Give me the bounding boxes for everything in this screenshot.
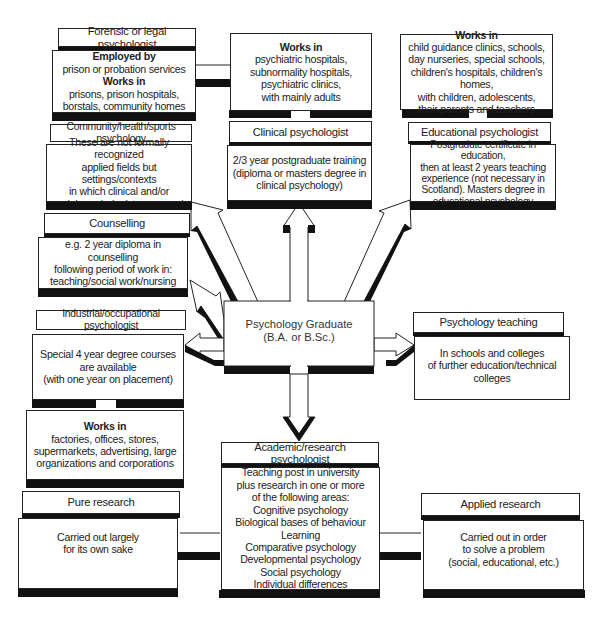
academic-body-box: Teaching post in university plus researc… xyxy=(221,467,380,590)
counselling-title: Counselling xyxy=(89,217,145,229)
academic-title: Academic/research psychologist xyxy=(225,441,375,466)
works-in-text: children's hospitals, children's homes, xyxy=(404,66,549,91)
clinical-title: Clinical psychologist xyxy=(253,126,348,138)
research-area: Individual differences xyxy=(254,578,348,590)
research-area: Social psychology xyxy=(260,566,341,578)
works-in-text: subnormality hospitals, xyxy=(250,66,352,78)
counselling-title-box: Counselling xyxy=(44,213,190,234)
educational-text: then at least 2 years teaching xyxy=(420,162,546,173)
industrial-text: (with one year on placement) xyxy=(43,373,173,385)
works-in-text: with children, adolescents, xyxy=(418,91,536,103)
community-text: in which clinical and/or xyxy=(69,185,169,197)
works-in-text: supermarkets, advertising, large xyxy=(34,445,177,457)
works-in-text: prisons, prison hospitals, xyxy=(69,88,179,100)
industrial-body-box: Special 4 year degree courses are availa… xyxy=(32,334,184,400)
works-in-text: psychiatric hospitals, xyxy=(255,53,347,65)
works-in-text: their parents and teachers xyxy=(418,103,535,115)
forensic-title-box: Forensic or legal psychologist xyxy=(58,28,196,47)
counselling-body-box: e.g. 2 year diploma in counselling follo… xyxy=(38,237,188,289)
research-area: Comparative psychology xyxy=(245,541,356,553)
academic-text: of the following areas: xyxy=(252,491,349,503)
educational-text: Postgradute certificate in education, xyxy=(414,139,552,162)
research-area: Developmental psychology xyxy=(240,553,361,565)
applied-research-text: to solve a problem xyxy=(462,543,544,555)
works-in-text: child guidance clinics, schools, xyxy=(408,41,544,53)
works-in-label: Works in xyxy=(103,75,146,87)
academic-title-box: Academic/research psychologist xyxy=(221,442,379,464)
teaching-title: Psychology teaching xyxy=(440,316,538,328)
works-in-text: psychiatric clinics, xyxy=(261,78,341,90)
teaching-body-box: In schools and colleges of further educa… xyxy=(414,336,570,400)
clinical-body-box: 2/3 year postgraduate training (diploma … xyxy=(227,145,372,201)
educational-title: Educational psychologist xyxy=(421,126,538,138)
clinical-text: (diploma or masters degree in xyxy=(233,167,366,179)
works-in-text: day nurseries, special schools, xyxy=(408,53,545,65)
works-in-text: organizations and corporations xyxy=(36,457,173,469)
educational-text: experience (not necessary in xyxy=(421,173,544,184)
pure-research-body-box: Carried out largely for its own sake xyxy=(18,518,178,589)
works-in-text: with mainly adults xyxy=(261,91,340,103)
works-in-label: Works in xyxy=(84,420,127,432)
community-text: These are not formally recognized xyxy=(50,136,188,161)
industrial-works-box: Works in factories, offices, stores, sup… xyxy=(26,410,184,480)
teaching-text: In schools and colleges xyxy=(440,347,544,359)
community-text: applied fields but settings/contexts xyxy=(50,161,188,186)
academic-text: plus research in one or more xyxy=(237,479,365,491)
arrow-to-teaching xyxy=(374,333,414,366)
center-hub-outline xyxy=(224,366,374,374)
arrow-to-industrial xyxy=(185,333,224,366)
educational-body-box: Postgradute certificate in education, th… xyxy=(410,144,556,202)
counselling-text: teaching/social work/nursing xyxy=(50,275,176,287)
works-in-label: Works in xyxy=(280,41,323,53)
clinical-text: clinical psychology) xyxy=(256,179,342,191)
industrial-title: Industrial/occupational psychologist xyxy=(40,308,182,333)
applied-research-title: Applied research xyxy=(461,498,541,510)
pure-research-text: Carried out largely xyxy=(57,531,139,543)
clinical-works-box: Works in psychiatric hospitals, subnorma… xyxy=(230,33,372,111)
applied-research-text: (social, educational, etc.) xyxy=(448,556,558,568)
educational-works-box: Works in child guidance clinics, schools… xyxy=(400,34,553,110)
clinical-text: 2/3 year postgraduate training xyxy=(233,154,366,166)
forensic-body-box: Employed by prison or probation services… xyxy=(52,50,196,113)
teaching-title-box: Psychology teaching xyxy=(413,312,564,333)
research-area: Cognitive psychology xyxy=(253,504,348,516)
industrial-text: Special 4 year degree courses xyxy=(40,348,176,360)
works-in-text: borstals, community homes xyxy=(63,100,186,112)
counselling-text: following period of work in: xyxy=(54,263,172,275)
teaching-text: of further education/technical xyxy=(428,359,557,371)
employed-by-text: prison or probation services xyxy=(62,63,185,75)
teaching-text: colleges xyxy=(474,372,511,384)
research-area: Learning xyxy=(281,529,320,541)
pure-research-title-box: Pure research xyxy=(22,491,180,514)
industrial-title-box: Industrial/occupational psychologist xyxy=(36,310,186,330)
academic-text: Teaching post in university xyxy=(242,466,360,478)
employed-by-label: Employed by xyxy=(92,50,155,62)
arrow-to-academic xyxy=(283,374,315,441)
industrial-text: are available xyxy=(80,361,137,373)
pure-research-title: Pure research xyxy=(67,496,134,508)
research-area: Biological bases of behaviour xyxy=(235,516,366,528)
graduate-title: Psychology Graduate xyxy=(224,318,374,331)
clinical-title-box: Clinical psychologist xyxy=(229,121,372,143)
community-body-box: These are not formally recognized applie… xyxy=(46,144,192,202)
works-in-text: factories, offices, stores, xyxy=(51,433,158,445)
pure-research-text: for its own sake xyxy=(63,543,133,555)
applied-research-text: Carried out in order xyxy=(460,531,546,543)
applied-research-body-box: Carried out in order to solve a problem … xyxy=(423,520,584,590)
educational-text: Scotland). Masters degree in xyxy=(421,184,544,195)
graduate-subtitle: (B.A. or B.Sc.) xyxy=(224,331,374,344)
applied-research-title-box: Applied research xyxy=(421,493,580,516)
counselling-text: e.g. 2 year diploma in counselling xyxy=(42,238,184,263)
center-hub-label: Psychology Graduate (B.A. or B.Sc.) xyxy=(224,318,374,344)
works-in-label: Works in xyxy=(455,29,498,41)
